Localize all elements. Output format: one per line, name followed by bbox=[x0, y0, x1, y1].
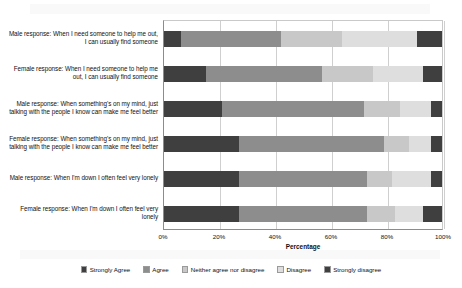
bar-segment bbox=[367, 171, 392, 187]
x-axis-title: Percentage bbox=[163, 243, 443, 250]
legend-swatch-icon bbox=[182, 266, 189, 273]
legend-label: Strongly disagree bbox=[333, 266, 381, 273]
x-tick-label: 20% bbox=[213, 233, 225, 240]
category-label: Male response: When I need someone to he… bbox=[6, 30, 158, 46]
bar-segment bbox=[239, 171, 367, 187]
bar-segment bbox=[395, 206, 423, 222]
category-label: Male response: When something's on my mi… bbox=[6, 100, 158, 116]
bar-segment bbox=[239, 206, 367, 222]
bar-segment bbox=[164, 31, 181, 47]
bar-row bbox=[164, 136, 442, 152]
legend-item: Strongly Agree bbox=[81, 266, 131, 273]
bar-segment bbox=[164, 171, 239, 187]
bar-segment bbox=[281, 31, 342, 47]
legend-item: Neither agree nor disagree bbox=[182, 266, 265, 273]
bar-segment bbox=[384, 136, 409, 152]
bar-segment bbox=[164, 206, 239, 222]
bar-segment bbox=[322, 66, 372, 82]
bar-segment bbox=[222, 101, 364, 117]
gridline bbox=[276, 21, 277, 229]
bar-segment bbox=[164, 101, 222, 117]
bar-segment bbox=[239, 136, 384, 152]
bar-segment bbox=[206, 66, 323, 82]
bar-row bbox=[164, 101, 442, 117]
bar-segment bbox=[431, 101, 442, 117]
legend-item: Disagree bbox=[277, 266, 311, 273]
bar-row bbox=[164, 171, 442, 187]
x-tick-label: 80% bbox=[381, 233, 393, 240]
x-tick-label: 60% bbox=[325, 233, 337, 240]
bar-segment bbox=[164, 136, 239, 152]
legend-item: Strongly disagree bbox=[324, 266, 381, 273]
gridline bbox=[388, 21, 389, 229]
legend-item: Agree bbox=[143, 266, 169, 273]
scan-artifact bbox=[30, 4, 430, 14]
legend-swatch-icon bbox=[81, 266, 88, 273]
gridline bbox=[220, 21, 221, 229]
bar-segment bbox=[373, 66, 423, 82]
x-tick-label: 100% bbox=[435, 233, 451, 240]
gridline bbox=[444, 21, 445, 229]
bar-row bbox=[164, 31, 442, 47]
category-label: Male response: When I'm down I often fee… bbox=[6, 174, 158, 182]
gridline bbox=[332, 21, 333, 229]
bar-segment bbox=[367, 206, 395, 222]
x-tick-label: 40% bbox=[269, 233, 281, 240]
bar-segment bbox=[342, 31, 417, 47]
category-labels: Male response: When I need someone to he… bbox=[6, 20, 158, 230]
bar-segment bbox=[423, 66, 442, 82]
legend-label: Disagree bbox=[286, 266, 311, 273]
bar-segment bbox=[164, 66, 206, 82]
legend-swatch-icon bbox=[324, 266, 331, 273]
legend-label: Agree bbox=[152, 266, 169, 273]
category-label: Female response: When I need someone to … bbox=[6, 65, 158, 81]
bar-segment bbox=[364, 101, 400, 117]
bar-segment bbox=[392, 171, 431, 187]
bar-row bbox=[164, 66, 442, 82]
bar-segment bbox=[181, 31, 281, 47]
plot-area bbox=[163, 20, 443, 230]
bar-segment bbox=[423, 206, 442, 222]
legend-swatch-icon bbox=[143, 266, 150, 273]
stacked-bar-chart: Male response: When I need someone to he… bbox=[0, 0, 462, 288]
bar-segment bbox=[409, 136, 431, 152]
x-tick-label: 0% bbox=[159, 233, 168, 240]
bar-segment bbox=[431, 171, 442, 187]
scan-artifact bbox=[20, 250, 440, 259]
bar-segment bbox=[417, 31, 442, 47]
chart-legend: Strongly AgreeAgreeNeither agree nor dis… bbox=[0, 266, 462, 273]
bar-segment bbox=[400, 101, 431, 117]
legend-label: Strongly Agree bbox=[90, 266, 131, 273]
legend-label: Neither agree nor disagree bbox=[191, 266, 265, 273]
category-label: Female response: When I'm down I often f… bbox=[6, 205, 158, 221]
bar-row bbox=[164, 206, 442, 222]
legend-swatch-icon bbox=[277, 266, 284, 273]
category-label: Female response: When something's on my … bbox=[6, 135, 158, 151]
bar-segment bbox=[431, 136, 442, 152]
